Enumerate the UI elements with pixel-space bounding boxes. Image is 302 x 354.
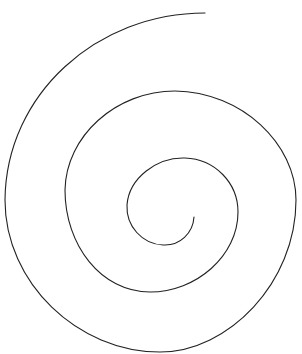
spiral-canvas: [0, 0, 302, 354]
spiral-path: [5, 13, 296, 352]
spiral-icon: [0, 0, 302, 354]
